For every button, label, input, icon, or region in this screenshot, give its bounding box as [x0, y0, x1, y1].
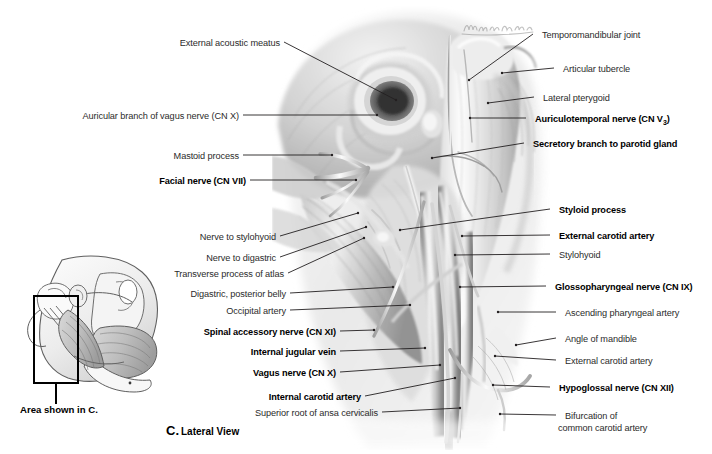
label-glossopharyngeal-nerve-cn-ix: Glossopharyngeal nerve (CN IX) — [555, 282, 692, 293]
label-temporomandibular-joint: Temporomandibular joint — [542, 30, 640, 41]
inset-callout-box — [33, 295, 79, 384]
label-bifurcation-of: Bifurcation of — [565, 411, 617, 422]
label-transverse-process-of-atlas: Transverse process of atlas — [174, 269, 284, 280]
figure-caption: C.Lateral View — [166, 421, 239, 439]
main-anatomical-illustration — [272, 6, 550, 450]
label-lateral-pterygoid: Lateral pterygoid — [543, 93, 610, 104]
label-auricular-branch-of-vagus-nerve-cn-x: Auricular branch of vagus nerve (CN X) — [82, 111, 239, 122]
label-external-carotid-artery: External carotid artery — [559, 231, 654, 242]
label-articular-tubercle: Articular tubercle — [563, 64, 630, 75]
label-vagus-nerve-cn-x: Vagus nerve (CN X) — [253, 368, 336, 379]
label-hypoglossal-nerve-cn-xii: Hypoglossal nerve (CN XII) — [559, 383, 674, 394]
label-stylohyoid: Stylohyoid — [559, 250, 600, 261]
label-occipital-artery: Occipital artery — [226, 306, 286, 317]
figure-letter: C. — [166, 423, 179, 438]
label-ascending-pharyngeal-artery: Ascending pharyngeal artery — [565, 308, 679, 319]
label-digastric-posterior-belly: Digastric, posterior belly — [191, 289, 286, 300]
label-external-carotid-artery: External carotid artery — [565, 356, 653, 367]
transverse-process-of-atlas — [373, 229, 395, 247]
label-nerve-to-digastric: Nerve to digastric — [206, 253, 276, 264]
subscript: 3 — [663, 119, 667, 126]
label-spinal-accessory-nerve-cn-xi: Spinal accessory nerve (CN XI) — [204, 327, 336, 338]
label-nerve-to-stylohyoid: Nerve to stylohyoid — [200, 232, 276, 243]
anatomy-figure: Area shown in C. C.Lateral View External… — [0, 0, 712, 454]
label-angle-of-mandible: Angle of mandible — [565, 334, 637, 345]
label-external-acoustic-meatus: External acoustic meatus — [180, 38, 280, 49]
inset-callout-stem — [55, 384, 57, 404]
inset-orientation-illustration — [4, 252, 164, 397]
label-auriculotemporal-nerve-cn-v: Auriculotemporal nerve (CN V3) — [535, 114, 670, 128]
label-common-carotid-artery: common carotid artery — [558, 423, 647, 434]
label-internal-carotid-artery: Internal carotid artery — [269, 392, 361, 403]
label-styloid-process: Styloid process — [559, 205, 626, 216]
inset-caption: Area shown in C. — [20, 404, 98, 415]
label-superior-root-of-ansa-cervicalis: Superior root of ansa cervicalis — [255, 408, 378, 419]
figure-view-label: Lateral View — [181, 426, 239, 437]
label-mastoid-process: Mastoid process — [174, 151, 239, 162]
label-secretory-branch-to-parotid-gland: Secretory branch to parotid gland — [533, 139, 677, 150]
label-internal-jugular-vein: Internal jugular vein — [251, 347, 336, 358]
artist-signature — [461, 18, 535, 38]
label-facial-nerve-cn-vii: Facial nerve (CN VII) — [159, 176, 246, 187]
